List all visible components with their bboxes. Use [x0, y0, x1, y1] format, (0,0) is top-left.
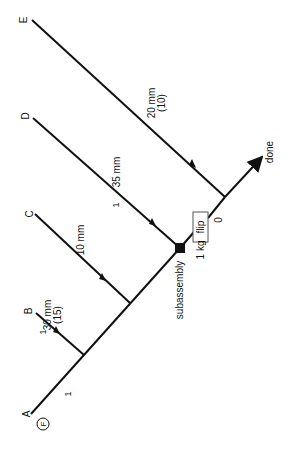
flip-box: flip	[193, 212, 208, 242]
arrow-d-icon	[149, 218, 156, 226]
subassembly-weight: 1 kg	[195, 241, 206, 260]
input-label-a: A	[21, 410, 32, 417]
dimension-c: 10 mm	[75, 225, 86, 256]
assembly-diagram: flip E D C B A F 1 1 1 30 mm (15) 10 mm …	[0, 0, 291, 453]
branch-d	[33, 118, 180, 248]
branch-e	[32, 20, 225, 197]
count-e: (10)	[156, 94, 167, 112]
edge-label-a: 1	[63, 391, 73, 396]
dimension-d: 35 mm	[111, 157, 122, 188]
subassembly-node	[175, 243, 185, 253]
flip-value: 0	[213, 217, 224, 223]
edge-label-d: 1	[111, 202, 121, 207]
subassembly-label: subassembly	[174, 261, 185, 319]
flip-label: flip	[195, 220, 206, 233]
main-trunk	[31, 157, 262, 414]
input-label-e: E	[18, 16, 29, 23]
svg-text:F: F	[39, 421, 48, 426]
f-badge: F	[37, 418, 49, 430]
input-label-d: D	[20, 112, 31, 119]
count-b: (15)	[52, 306, 63, 324]
arrow-b-icon	[53, 326, 60, 334]
output-label: done	[264, 140, 275, 163]
input-label-b: B	[23, 307, 34, 314]
input-label-c: C	[24, 210, 35, 217]
